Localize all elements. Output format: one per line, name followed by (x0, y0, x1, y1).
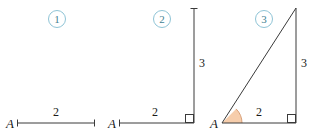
step-badge-label-1: 1 (54, 13, 60, 25)
vertex-label-A-2: A (107, 116, 116, 131)
base-length-label-2: 2 (152, 105, 158, 119)
panel-step-1: 1 A 2 (5, 11, 95, 132)
angle-arc-fill-3 (222, 109, 242, 123)
right-angle-mark-3 (288, 115, 296, 123)
base-length-label-1: 2 (53, 105, 59, 119)
height-length-label-3: 3 (301, 56, 307, 70)
construction-figure: 1 A 2 2 A 2 3 3 (0, 0, 311, 139)
panel-step-3: 3 A 2 3 (209, 8, 307, 131)
right-angle-mark-2 (186, 115, 194, 123)
vertex-label-A-1: A (5, 116, 14, 131)
panel-step-2: 2 A 2 3 (107, 8, 205, 131)
step-badge-label-3: 3 (261, 13, 267, 25)
base-length-label-3: 2 (256, 105, 262, 119)
figure-canvas: 1 A 2 2 A 2 3 3 (0, 0, 311, 139)
vertex-label-A-3: A (209, 116, 218, 131)
step-badge-label-2: 2 (159, 13, 165, 25)
height-length-label-2: 3 (199, 56, 205, 70)
